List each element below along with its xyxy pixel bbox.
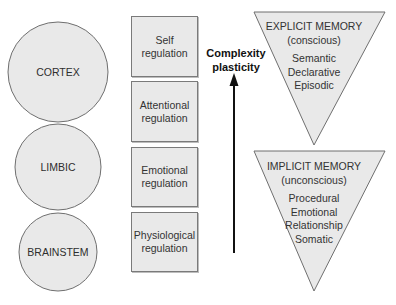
arrow-up-icon	[230, 73, 239, 86]
self-regulation-box: Self regulation	[131, 16, 198, 77]
implicit-memory-item: Somatic	[262, 233, 366, 247]
explicit-memory-text: EXPLICIT MEMORY (conscious) Semantic Dec…	[262, 20, 366, 93]
implicit-memory-item: Relationship	[262, 219, 366, 233]
attentional-regulation-box: Attentional regulation	[131, 81, 198, 142]
explicit-memory-title: EXPLICIT MEMORY	[262, 20, 366, 34]
implicit-memory-subtitle: (unconscious)	[262, 174, 366, 188]
box-line: Attentional	[140, 99, 190, 112]
box-line: regulation	[141, 177, 188, 190]
box-line: regulation	[140, 112, 190, 125]
implicit-memory-item: Procedural	[262, 192, 366, 206]
explicit-memory-item: Episodic	[262, 79, 366, 93]
box-line: regulation	[141, 47, 187, 60]
limbic-label: LIMBIC	[15, 161, 101, 174]
implicit-memory-item: Emotional	[262, 206, 366, 220]
cortex-label: CORTEX	[8, 66, 108, 79]
brainstem-label: BRAINSTEM	[19, 246, 97, 259]
box-line: regulation	[134, 242, 195, 255]
box-line: Physiological	[134, 229, 195, 242]
box-line: Emotional	[141, 164, 188, 177]
explicit-memory-item: Semantic	[262, 52, 366, 66]
implicit-memory-title: IMPLICIT MEMORY	[262, 160, 366, 174]
emotional-regulation-box: Emotional regulation	[131, 147, 198, 207]
box-line: Self	[141, 34, 187, 47]
implicit-memory-text: IMPLICIT MEMORY (unconscious) Procedural…	[262, 160, 366, 246]
explicit-memory-subtitle: (conscious)	[262, 34, 366, 48]
explicit-memory-item: Declarative	[262, 66, 366, 80]
physiological-regulation-box: Physiological regulation	[131, 212, 198, 272]
